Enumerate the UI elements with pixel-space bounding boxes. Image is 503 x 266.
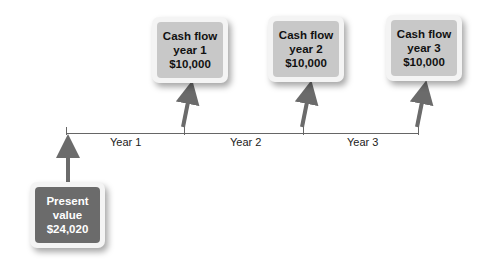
present-value-subtitle: value bbox=[53, 208, 82, 222]
cash-flow-year: year 1 bbox=[173, 43, 206, 57]
arrow-icon bbox=[302, 92, 309, 127]
present-value-box: Present value $24,020 bbox=[30, 182, 105, 248]
timeline-tick bbox=[303, 127, 304, 135]
timeline-label-year-2: Year 2 bbox=[230, 136, 261, 148]
arrow-icon bbox=[183, 92, 190, 127]
cash-flow-year-3-box: Cash flow year 3 $10,000 bbox=[386, 15, 462, 81]
arrow-icon bbox=[417, 92, 424, 127]
cash-flow-amount: $10,000 bbox=[403, 55, 445, 69]
present-value-amount: $24,020 bbox=[47, 222, 89, 236]
timeline-label-year-3: Year 3 bbox=[347, 136, 378, 148]
cash-flow-title: Cash flow bbox=[397, 27, 451, 41]
timeline-label-year-1: Year 1 bbox=[110, 136, 141, 148]
cash-flow-year: year 3 bbox=[407, 41, 440, 55]
cash-flow-year: year 2 bbox=[289, 42, 322, 56]
timeline-tick bbox=[184, 127, 185, 135]
timeline-axis bbox=[66, 133, 419, 134]
cash-flow-amount: $10,000 bbox=[285, 56, 327, 70]
timeline-tick bbox=[418, 127, 419, 135]
cash-flow-amount: $10,000 bbox=[169, 57, 211, 71]
cash-flow-title: Cash flow bbox=[163, 29, 217, 43]
present-value-title: Present bbox=[46, 194, 88, 208]
cash-flow-year-1-box: Cash flow year 1 $10,000 bbox=[152, 17, 228, 83]
cash-flow-title: Cash flow bbox=[279, 28, 333, 42]
timeline-tick bbox=[66, 127, 67, 135]
cash-flow-year-2-box: Cash flow year 2 $10,000 bbox=[268, 16, 344, 82]
